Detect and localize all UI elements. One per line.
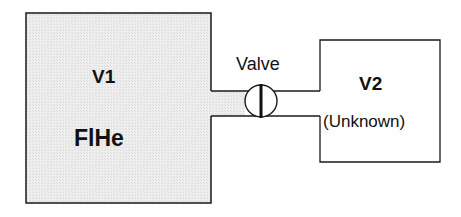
vessel-v1-content: FlHe <box>74 125 124 152</box>
valve-icon <box>245 84 277 118</box>
vessel-v2-content: (Unknown) <box>323 112 405 132</box>
diagram-canvas <box>0 0 461 217</box>
vessel-v1-body <box>26 13 245 203</box>
vessel-v2-outline <box>320 40 440 162</box>
vessel-v1-label: V1 <box>92 66 115 88</box>
vessel-v2-label: V2 <box>359 73 382 95</box>
valve-label: Valve <box>236 54 280 75</box>
